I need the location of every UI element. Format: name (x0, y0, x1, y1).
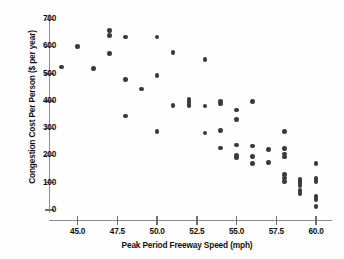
x-axis-tick (276, 216, 277, 225)
data-point (282, 146, 287, 151)
data-point (218, 128, 223, 133)
y-axis-tick-label: 400 (30, 96, 56, 105)
y-axis-tick-label: 200 (30, 150, 56, 159)
data-point (123, 35, 128, 40)
data-point (187, 103, 192, 108)
data-point (234, 143, 239, 148)
data-point (234, 108, 239, 113)
y-axis-tick-label: 700 (30, 14, 56, 23)
data-point (155, 73, 160, 78)
y-axis-tick-label: 500 (30, 69, 56, 78)
data-point (203, 131, 208, 136)
x-axis-tick-label: 47.5 (97, 227, 137, 236)
data-point (298, 188, 303, 193)
x-axis-title: Peak Period Freeway Speed (mph) (42, 240, 332, 250)
data-point (298, 179, 303, 184)
data-point (218, 146, 223, 151)
y-axis-tick-label: 0 (30, 205, 56, 214)
x-axis-tick (315, 216, 316, 225)
x-axis-tick (77, 216, 78, 225)
data-point (266, 160, 271, 165)
x-axis-tick (236, 216, 237, 225)
data-point (266, 147, 271, 152)
data-point (187, 102, 192, 107)
data-point (234, 153, 239, 158)
data-point (298, 191, 303, 196)
data-point (91, 66, 96, 71)
scatter-chart: Congestion Cost Per Person ($ per year) … (0, 0, 344, 259)
data-point (314, 204, 319, 209)
x-axis-tick-label: 60.0 (296, 227, 336, 236)
data-point (314, 176, 319, 181)
data-point (107, 28, 112, 33)
y-axis-tick-label: 600 (30, 41, 56, 50)
data-point (155, 129, 160, 134)
data-point (282, 179, 287, 184)
y-axis-tick-label: 300 (30, 123, 56, 132)
data-point (314, 194, 319, 199)
data-point (171, 103, 176, 108)
data-point (187, 99, 192, 104)
x-axis-tick (156, 216, 157, 225)
data-point (282, 155, 287, 160)
data-point (171, 50, 176, 55)
data-point (139, 87, 144, 92)
data-point (282, 172, 287, 177)
data-point (203, 57, 208, 62)
data-point (75, 44, 80, 49)
data-point (107, 33, 112, 38)
data-point (218, 102, 223, 107)
data-point (298, 177, 303, 182)
data-point (250, 154, 255, 159)
data-point (282, 176, 287, 181)
data-point (282, 152, 287, 157)
data-point (250, 161, 255, 166)
data-point (298, 181, 303, 186)
data-point (282, 129, 287, 134)
x-axis-tick-label: 57.5 (256, 227, 296, 236)
x-axis-tick-label: 45.0 (58, 227, 98, 236)
x-axis-tick-label: 52.5 (177, 227, 217, 236)
data-point (314, 179, 319, 184)
data-point (203, 104, 208, 109)
y-axis-tick-label: 100 (30, 178, 56, 187)
x-axis-tick (117, 216, 118, 225)
x-axis-tick-label: 50.0 (137, 227, 177, 236)
data-point (155, 35, 160, 40)
data-point (218, 99, 223, 104)
x-axis-tick (196, 216, 197, 225)
data-point (234, 117, 239, 122)
x-axis-line (49, 220, 332, 221)
data-point (314, 197, 319, 202)
data-point (298, 184, 303, 189)
data-point (234, 155, 239, 160)
data-point (187, 97, 192, 102)
data-point (314, 161, 319, 166)
data-point (123, 114, 128, 119)
data-point (59, 65, 64, 70)
data-point (123, 77, 128, 82)
data-point (107, 51, 112, 56)
x-axis-tick-label: 55.0 (217, 227, 257, 236)
data-point (250, 99, 255, 104)
data-point (250, 144, 255, 149)
